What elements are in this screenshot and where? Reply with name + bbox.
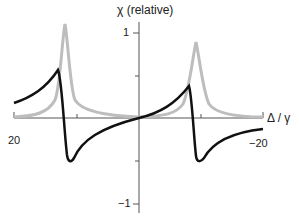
y-tick-label-top: 1 (123, 26, 129, 38)
y-axis-label: χ (relative) (117, 3, 173, 17)
x-axis-label: Δ / γ (267, 111, 290, 125)
chart-plot (0, 0, 299, 223)
y-tick-label-bottom: −1 (118, 197, 131, 209)
x-tick-label-right: −20 (249, 137, 268, 149)
x-tick-label-left: 20 (8, 134, 20, 146)
